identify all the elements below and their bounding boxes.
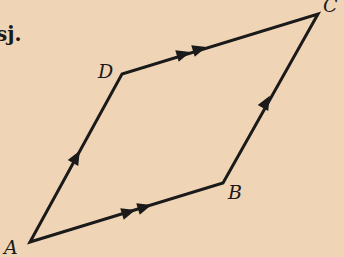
- vertex-label-a: A: [2, 236, 18, 257]
- parallelogram-outline: [30, 14, 318, 242]
- parallelogram-diagram: sj. A B C D: [0, 0, 344, 257]
- vertex-label-c: C: [323, 0, 338, 16]
- vertex-label-d: D: [97, 60, 113, 82]
- arrow-ad-icon: [68, 148, 85, 166]
- vertex-label-b: B: [227, 181, 242, 203]
- text-fragment: sj.: [0, 22, 21, 46]
